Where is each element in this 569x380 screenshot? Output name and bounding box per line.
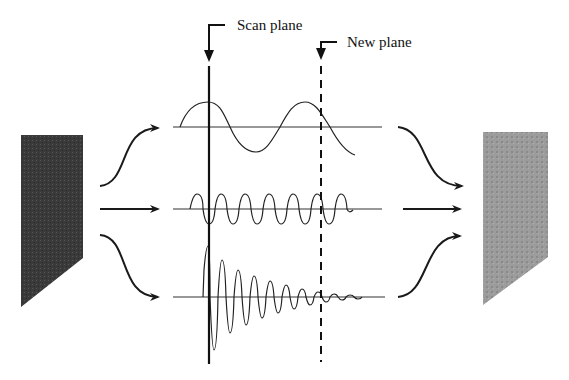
new-plane-arrowhead-icon [316,48,326,60]
input-sample-block [21,135,83,307]
arrow-to-bottom-wave [100,235,158,297]
arrow-from-bottom-wave [398,236,460,297]
input-arrows [100,128,158,297]
output-sample-block [483,132,548,305]
new-plane-label: New plane [347,34,412,50]
scan-plane-pointer [209,25,225,54]
arrow-to-top-wave [100,128,158,186]
decaying-wave [203,246,362,350]
diagram-canvas: Scan plane New plane [0,0,569,380]
low-frequency-wave [180,102,355,155]
arrow-from-top-wave [398,127,462,186]
scan-plane-arrowhead-icon [204,50,214,62]
scan-plane-label: Scan plane [237,17,303,33]
output-arrows [398,127,462,297]
wave-baselines [173,127,385,297]
